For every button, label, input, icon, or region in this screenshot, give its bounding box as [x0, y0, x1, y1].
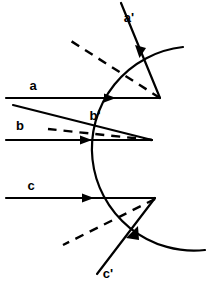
ray-a-prime-arrowhead-icon — [135, 45, 146, 58]
ray-b-normal-dashed-line — [48, 129, 152, 140]
ray-a-prime-label: a' — [124, 10, 134, 25]
ray-c-arrowhead-icon — [82, 194, 94, 203]
ray-a-arrowhead-icon — [104, 94, 116, 103]
ray-b-prime-label: b' — [89, 108, 100, 123]
ray-c-prime-reflected-line — [97, 198, 155, 274]
ray-diagram-figure: a a' b b' c c' — [0, 0, 223, 285]
ray-b-arrowhead-icon — [80, 136, 92, 145]
ray-a-label: a — [29, 78, 37, 93]
ray-c-prime-label: c' — [103, 266, 113, 281]
ray-diagram-canvas: a a' b b' c c' — [0, 0, 223, 285]
ray-c-label: c — [27, 178, 34, 193]
circular-mirror-surface — [92, 47, 205, 251]
ray-b-label: b — [16, 118, 24, 133]
ray-a-normal-dashed-line — [71, 41, 160, 98]
ray-b-prime-reflected-line — [13, 105, 152, 140]
